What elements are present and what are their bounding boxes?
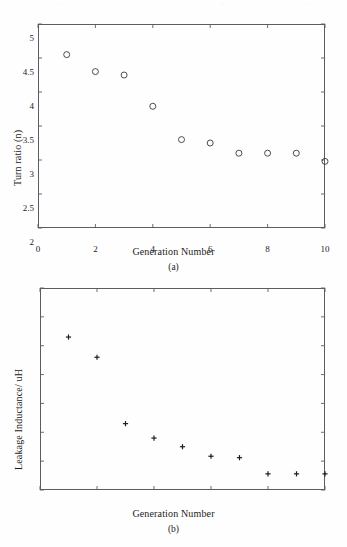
chart-panel-b: 024681030405060708090100 Leakage Inducta… <box>0 278 347 543</box>
y-tick-label: 4.5 <box>8 68 34 77</box>
scan-artifact-mark: ▪ <box>222 1 224 6</box>
data-point <box>265 471 270 476</box>
axes-box-a <box>38 24 325 228</box>
panel-caption-b: (b) <box>0 524 347 534</box>
scan-artifact-mark: · <box>120 1 122 6</box>
scan-artifact-mark: —··— <box>52 1 68 6</box>
data-point <box>180 444 185 449</box>
y-tick-label: 5 <box>8 34 34 43</box>
y-axis-title-b: Leakage Inductance/ uH <box>13 369 24 470</box>
data-point <box>66 334 71 339</box>
scan-artifact-strip: ·· —··— · · ▪ —·—· <box>0 0 347 10</box>
data-point <box>293 150 299 156</box>
data-point <box>207 140 213 146</box>
axes-box-b <box>40 288 325 490</box>
scan-artifact-mark: ·· <box>28 1 33 6</box>
panel-caption-a: (a) <box>0 262 347 272</box>
data-point <box>64 52 70 58</box>
data-point <box>236 150 242 156</box>
data-point <box>322 158 328 164</box>
y-tick-label: 2.5 <box>8 204 34 213</box>
data-point <box>294 471 299 476</box>
data-point <box>121 72 127 78</box>
scan-artifact-mark: · <box>172 1 174 6</box>
plot-canvas-b <box>40 288 327 492</box>
y-tick-label: 4 <box>8 102 34 111</box>
y-axis-title-a: Turn ratio (n) <box>12 130 23 186</box>
chart-panel-a: 024681022.533.544.55 Turn ratio (n) Gene… <box>0 14 347 276</box>
data-point <box>123 421 128 426</box>
figure-page: ·· —··— · · ▪ —·—· 024681022.533.544.55 … <box>0 0 347 547</box>
data-point <box>237 455 242 460</box>
plot-canvas-a <box>38 24 327 230</box>
scan-artifact-mark: —·—· <box>300 1 316 6</box>
data-point <box>92 69 98 75</box>
data-point <box>265 150 271 156</box>
data-point <box>151 435 156 440</box>
x-axis-title-b: Generation Number <box>0 508 347 519</box>
data-point <box>150 103 156 109</box>
data-point <box>94 355 99 360</box>
data-point <box>322 471 327 476</box>
x-axis-title-a: Generation Number <box>0 246 347 257</box>
data-point <box>208 454 213 459</box>
data-point <box>179 137 185 143</box>
